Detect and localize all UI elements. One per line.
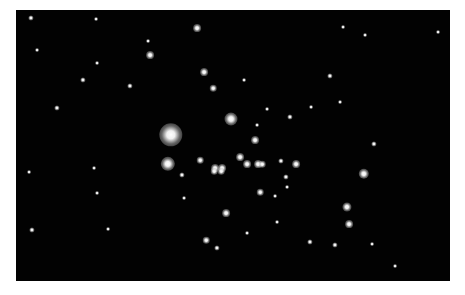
star bbox=[273, 194, 277, 198]
star bbox=[307, 239, 312, 244]
star bbox=[242, 78, 246, 82]
star bbox=[278, 158, 283, 163]
star bbox=[218, 168, 225, 175]
star bbox=[371, 141, 376, 146]
star bbox=[236, 153, 244, 161]
star bbox=[193, 24, 201, 32]
star bbox=[255, 123, 259, 127]
star bbox=[285, 185, 289, 189]
star bbox=[251, 136, 259, 144]
star bbox=[214, 245, 219, 250]
star bbox=[159, 123, 182, 146]
star bbox=[210, 85, 217, 92]
star bbox=[359, 169, 369, 179]
star bbox=[127, 83, 132, 88]
star bbox=[182, 196, 186, 200]
star bbox=[265, 107, 269, 111]
star bbox=[146, 39, 150, 43]
star bbox=[275, 220, 279, 224]
star bbox=[225, 113, 238, 126]
star bbox=[95, 191, 99, 195]
star bbox=[28, 15, 33, 20]
star bbox=[222, 209, 230, 217]
star bbox=[257, 189, 264, 196]
star bbox=[332, 242, 337, 247]
star bbox=[345, 220, 353, 228]
star bbox=[95, 61, 99, 65]
star bbox=[146, 51, 154, 59]
star bbox=[161, 157, 175, 171]
star bbox=[197, 157, 204, 164]
star bbox=[309, 105, 313, 109]
star bbox=[393, 264, 397, 268]
star bbox=[245, 231, 249, 235]
star bbox=[92, 166, 96, 170]
star bbox=[29, 227, 34, 232]
star bbox=[338, 100, 342, 104]
star bbox=[200, 68, 208, 76]
star bbox=[363, 33, 367, 37]
star bbox=[35, 48, 39, 52]
star bbox=[211, 168, 218, 175]
star bbox=[370, 242, 374, 246]
star bbox=[436, 30, 440, 34]
star bbox=[287, 114, 292, 119]
star bbox=[54, 105, 59, 110]
star bbox=[106, 227, 110, 231]
star bbox=[341, 25, 345, 29]
star bbox=[94, 17, 98, 21]
star bbox=[80, 77, 85, 82]
star bbox=[203, 237, 210, 244]
star-field-image bbox=[16, 10, 450, 281]
star bbox=[259, 161, 266, 168]
star bbox=[243, 160, 251, 168]
star bbox=[292, 160, 300, 168]
star bbox=[342, 202, 351, 211]
star bbox=[179, 172, 184, 177]
star bbox=[283, 174, 288, 179]
star bbox=[327, 73, 332, 78]
star bbox=[27, 170, 31, 174]
